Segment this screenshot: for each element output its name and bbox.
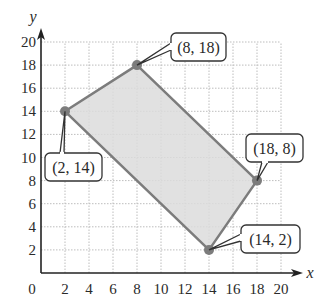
x-tick-label: 14	[202, 281, 218, 297]
y-tick-label: 12	[21, 126, 36, 142]
y-axis-label: y	[27, 8, 37, 26]
y-tick-label: 10	[21, 150, 36, 166]
x-tick-label: 6	[109, 281, 117, 297]
x-tick-label: 2	[61, 281, 69, 297]
y-tick-label: 2	[29, 242, 37, 258]
callout-pointer	[137, 43, 171, 65]
y-tick-label: 16	[21, 80, 37, 96]
y-tick-label: 4	[29, 219, 37, 235]
coordinate-plane-figure: xy 246810121416182024681012141618200 (2,…	[0, 0, 324, 304]
y-tick-label: 8	[29, 173, 37, 189]
callout-pointer	[60, 111, 65, 153]
origin-label: 0	[28, 281, 36, 297]
y-tick-label: 6	[29, 196, 37, 212]
y-tick-label: 18	[21, 57, 36, 73]
x-tick-label: 20	[274, 281, 289, 297]
callout-label: (14, 2)	[249, 231, 292, 249]
x-tick-label: 16	[226, 281, 242, 297]
x-tick-label: 10	[154, 281, 169, 297]
x-tick-label: 8	[133, 281, 141, 297]
callout-pointer	[257, 162, 268, 181]
y-tick-label: 14	[21, 103, 37, 119]
callout-label: (2, 14)	[52, 159, 95, 177]
callout-8-18: (8, 18)	[137, 33, 226, 65]
x-axis-label: x	[305, 264, 313, 281]
callout-label: (18, 8)	[253, 140, 296, 158]
y-tick-label: 20	[21, 34, 36, 50]
callout-label: (8, 18)	[177, 39, 220, 57]
x-tick-label: 4	[85, 281, 93, 297]
x-tick-label: 12	[178, 281, 193, 297]
x-tick-label: 18	[250, 281, 265, 297]
callout-18-8: (18, 8)	[246, 134, 303, 181]
